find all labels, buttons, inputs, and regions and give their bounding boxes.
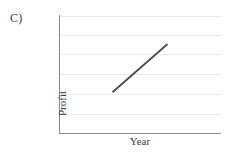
chart-figure: C) Profit Year: [0, 0, 235, 156]
gridline: [59, 74, 221, 75]
gridline: [59, 16, 221, 17]
y-axis-title: Profit: [57, 74, 68, 134]
x-axis-line: [59, 133, 221, 134]
gridline: [59, 94, 221, 95]
x-axis-title: Year: [59, 136, 221, 147]
gridline: [59, 114, 221, 115]
panel-letter-label: C): [10, 12, 22, 24]
plot-area: [59, 15, 221, 133]
gridline: [59, 54, 221, 55]
y-axis-title-wrapper: Profit: [40, 48, 56, 108]
gridline: [59, 35, 221, 36]
gridlines-group: [59, 15, 221, 133]
